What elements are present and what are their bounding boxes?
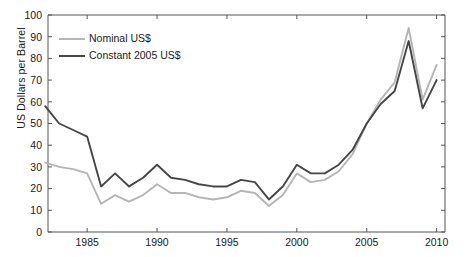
y-tick-label: 0 [36, 226, 42, 238]
chart-plot-area: 0102030405060708090100 19851990199520002… [0, 0, 474, 257]
x-tick-label-group: 198519901995200020052010 [75, 236, 448, 248]
y-tick-label: 80 [30, 52, 42, 64]
legend-label-nominal: Nominal US$ [89, 32, 151, 44]
series-line-constant-2005 [45, 41, 436, 199]
legend-label-constant-2005: Constant 2005 US$ [89, 49, 181, 61]
x-tick-label: 2010 [425, 236, 449, 248]
y-tick-label: 60 [30, 96, 42, 108]
y-tick-label: 50 [30, 117, 42, 129]
chart-legend: Nominal US$Constant 2005 US$ [59, 32, 181, 61]
x-tick-label: 1985 [75, 236, 99, 248]
x-tick-label: 1995 [215, 236, 239, 248]
x-tick-label: 2005 [355, 236, 379, 248]
x-tick-label: 2000 [285, 236, 309, 248]
y-tick-label: 30 [30, 161, 42, 173]
y-tick-label: 90 [30, 31, 42, 43]
y-tick-label: 100 [24, 9, 42, 21]
y-tick-label: 20 [30, 182, 42, 194]
oil-price-chart-figure: US Dollars per Barrel 010203040506070809… [0, 0, 474, 257]
x-tick-label: 1990 [145, 236, 169, 248]
y-tick-label-group: 0102030405060708090100 [24, 9, 42, 238]
y-tick-label: 10 [30, 204, 42, 216]
y-tick-label: 70 [30, 74, 42, 86]
y-tick-label: 40 [30, 139, 42, 151]
